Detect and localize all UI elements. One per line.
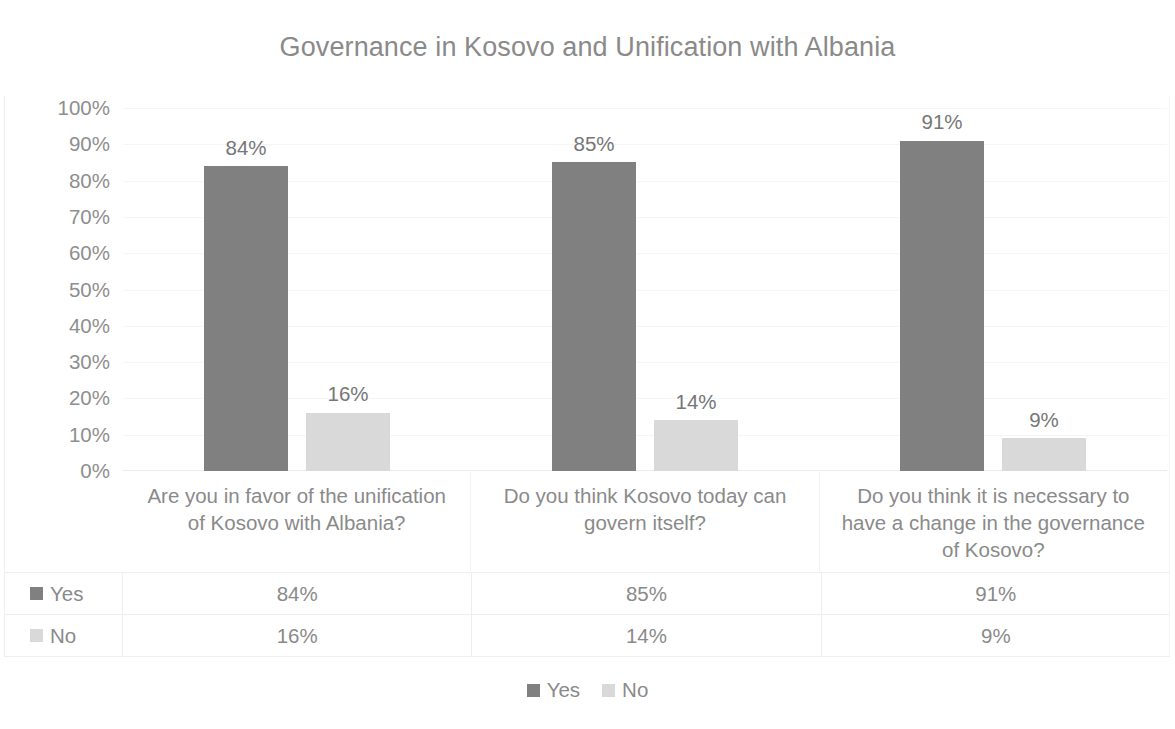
x-axis-category-labels: Are you in favor of the unification of K… bbox=[123, 472, 1167, 572]
y-axis-tick-label: 40% bbox=[14, 316, 110, 337]
bar-yes[interactable] bbox=[552, 162, 636, 471]
bar-yes[interactable] bbox=[204, 166, 288, 471]
table-cell: 9% bbox=[822, 615, 1170, 656]
legend-swatch-icon bbox=[527, 684, 540, 697]
series-swatch-icon bbox=[30, 629, 43, 642]
table-row: Yes84%85%91% bbox=[4, 573, 1170, 615]
series-swatch-icon bbox=[30, 587, 43, 600]
legend-item-no[interactable]: No bbox=[602, 678, 648, 702]
y-axis-tick-label: 30% bbox=[14, 352, 110, 373]
bar-value-label: 84% bbox=[186, 138, 306, 159]
bar-value-label: 14% bbox=[636, 392, 756, 413]
table-cell: 91% bbox=[822, 573, 1170, 614]
plot-area: 84%16%85%14%91%9% bbox=[123, 108, 1167, 471]
bar-no[interactable] bbox=[306, 413, 390, 471]
bar-value-label: 91% bbox=[882, 112, 1002, 133]
table-cell: 85% bbox=[472, 573, 821, 614]
y-axis-tick-label: 100% bbox=[14, 98, 110, 119]
bar-no[interactable] bbox=[654, 420, 738, 471]
data-table: Yes84%85%91%No16%14%9% bbox=[4, 572, 1170, 656]
bar-group: 84%16% bbox=[123, 108, 471, 471]
x-axis-category-label: Do you think Kosovo today can govern its… bbox=[471, 472, 819, 572]
bar-group: 85%14% bbox=[471, 108, 819, 471]
bar-group: 91%9% bbox=[819, 108, 1167, 471]
series-name: Yes bbox=[50, 582, 83, 606]
y-axis-tick-label: 70% bbox=[14, 207, 110, 228]
chart-container: Governance in Kosovo and Unification wit… bbox=[0, 0, 1175, 729]
y-axis-tick-label: 90% bbox=[14, 134, 110, 155]
bar-value-label: 16% bbox=[288, 384, 408, 405]
table-cell: 14% bbox=[472, 615, 821, 656]
chart-legend: YesNo bbox=[0, 678, 1175, 702]
legend-label: No bbox=[622, 678, 648, 702]
legend-label: Yes bbox=[547, 678, 580, 702]
table-row-header: No bbox=[4, 615, 123, 656]
y-axis-tick-label: 20% bbox=[14, 388, 110, 409]
bar-value-label: 9% bbox=[984, 410, 1104, 431]
bar-no[interactable] bbox=[1002, 438, 1086, 471]
y-axis-tick-label: 0% bbox=[14, 461, 110, 482]
table-cell: 16% bbox=[123, 615, 472, 656]
y-axis-tick-label: 50% bbox=[14, 279, 110, 300]
y-axis-tick-label: 10% bbox=[14, 424, 110, 445]
x-axis-category-label: Do you think it is necessary to have a c… bbox=[820, 472, 1167, 572]
table-row: No16%14%9% bbox=[4, 615, 1170, 657]
y-axis-tick-label: 80% bbox=[14, 170, 110, 191]
table-row-header: Yes bbox=[4, 573, 123, 614]
y-axis-tick-label: 60% bbox=[14, 243, 110, 264]
x-axis-category-label: Are you in favor of the unification of K… bbox=[123, 472, 471, 572]
bar-yes[interactable] bbox=[900, 141, 984, 471]
y-axis: 100%90%80%70%60%50%40%30%20%10%0% bbox=[14, 96, 110, 472]
legend-item-yes[interactable]: Yes bbox=[527, 678, 580, 702]
series-name: No bbox=[50, 624, 76, 648]
bar-value-label: 85% bbox=[534, 134, 654, 155]
legend-swatch-icon bbox=[602, 684, 615, 697]
chart-title: Governance in Kosovo and Unification wit… bbox=[0, 32, 1175, 63]
table-cell: 84% bbox=[123, 573, 472, 614]
